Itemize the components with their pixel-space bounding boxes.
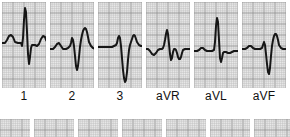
ecg-trace [50,2,94,88]
lead-label-row: 123aVRaVLaVF [0,88,290,106]
ecg-lead-panel-avf [242,2,286,88]
lead-label-avf: aVF [242,88,286,105]
ecg-chest-panel-cropped-2 [78,119,118,137]
lead-label-iii: 3 [98,88,142,105]
ecg-trace [242,2,286,88]
ecg-grid [254,119,290,137]
ecg-trace [2,2,46,88]
ecg-lead-panel-iii [98,2,142,88]
lead-label-ii: 2 [50,88,94,105]
ecg-grid [122,119,162,137]
ecg-chest-panel-cropped-3 [122,119,162,137]
ecg-grid [166,119,206,137]
ecg-chest-panel-cropped-0 [0,119,30,137]
ecg-lead-panel-ii [50,2,94,88]
ecg-trace [98,2,142,88]
ecg-lead-panel-avr [146,2,190,88]
ecg-trace [194,2,238,88]
ecg-figure: 123aVRaVLaVF [0,0,290,137]
ecg-chest-panel-cropped-6 [254,119,290,137]
ecg-grid [210,119,250,137]
ecg-chest-panel-cropped-1 [34,119,74,137]
lead-label-avr: aVR [146,88,190,105]
ecg-lead-panel-i [2,2,46,88]
limb-leads-row [0,2,290,88]
ecg-grid [34,119,74,137]
ecg-grid [78,119,118,137]
ecg-lead-panel-avl [194,2,238,88]
lead-label-avl: aVL [194,88,238,105]
ecg-grid [0,119,30,137]
ecg-trace [146,2,190,88]
chest-leads-row-cropped [0,119,290,137]
ecg-chest-panel-cropped-4 [166,119,206,137]
lead-label-i: 1 [2,88,46,105]
ecg-chest-panel-cropped-5 [210,119,250,137]
